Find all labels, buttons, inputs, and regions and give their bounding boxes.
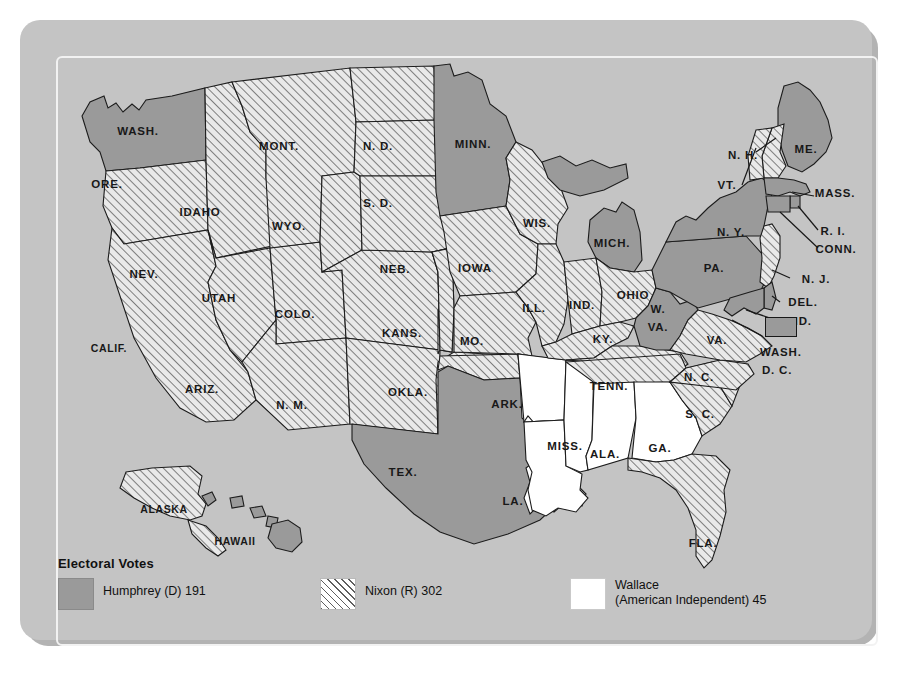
state-label-kans: KANS. [382, 327, 422, 339]
state-label-utah: UTAH [202, 292, 236, 304]
state-label-sc: S. C. [685, 408, 715, 420]
state-label-wash: WASH. [117, 125, 159, 137]
state-label-mich: MICH. [594, 237, 631, 249]
map-area: WASH.ORE.CALIF.IDAHONEV.UTAHARIZ.MONT.WY… [20, 20, 872, 640]
legend: Electoral Votes Humphrey (D) 191 Nixon (… [58, 556, 838, 622]
state-label-conn: CONN. [815, 243, 856, 255]
state-shape-ark-body [518, 354, 566, 422]
state-label-ga: GA. [649, 442, 672, 454]
state-label-ky: KY. [593, 333, 613, 345]
state-shape-ind [564, 258, 602, 334]
legend-label-wallace-line2: (American Independent) 45 [615, 593, 766, 608]
state-label-la: LA. [503, 495, 524, 507]
legend-label-humphrey: Humphrey (D) 191 [103, 578, 206, 599]
legend-title: Electoral Votes [58, 556, 838, 571]
us-states-svg [20, 20, 872, 640]
state-shape-hawaii-2 [230, 496, 244, 508]
state-label-okla: OKLA. [388, 386, 428, 398]
legend-swatch-wallace [570, 578, 606, 610]
state-label-nev: NEV. [130, 268, 159, 280]
legend-row: Humphrey (D) 191 Nixon (R) 302 Wallace (… [58, 578, 838, 622]
state-label-pa: PA. [704, 262, 725, 274]
state-label-ark: ARK. [491, 398, 522, 410]
state-label-minn: MINN. [455, 138, 492, 150]
dc-label-line1: WASH. [760, 346, 802, 358]
state-label-del: DEL. [788, 296, 817, 308]
state-label-hawaii: HAWAII [215, 535, 256, 547]
state-label-tenn: TENN. [590, 380, 629, 392]
state-label-miss: MISS. [547, 440, 582, 452]
state-label-ohio: OHIO [617, 289, 650, 301]
state-label-ill: ILL. [522, 302, 546, 314]
dc-label-line2: D. C. [762, 364, 792, 376]
state-label-ala: ALA. [590, 448, 620, 460]
figure-root: WASH.ORE.CALIF.IDAHONEV.UTAHARIZ.MONT.WY… [0, 0, 904, 683]
state-shape-conn [766, 196, 790, 212]
state-shape-hawaii-big [268, 520, 302, 552]
state-label-tex: TEX. [389, 466, 418, 478]
dc-swatch [765, 317, 797, 337]
legend-swatch-humphrey [58, 578, 94, 610]
state-shape-hawaii-3 [250, 506, 266, 518]
state-label-neb: NEB. [380, 263, 411, 275]
state-label-ind: IND. [569, 299, 595, 311]
state-label-wva: VA. [648, 321, 669, 333]
legend-label-wallace: Wallace (American Independent) 45 [615, 578, 766, 608]
state-shape-nj [760, 224, 780, 288]
legend-item-nixon: Nixon (R) 302 [320, 578, 442, 610]
state-label-wva: W. [650, 303, 665, 315]
state-label-ore: ORE. [91, 178, 122, 190]
legend-label-nixon: Nixon (R) 302 [365, 578, 442, 599]
state-label-calif: CALIF. [91, 342, 127, 354]
state-label-idaho: IDAHO [179, 206, 220, 218]
state-shape-ri [790, 196, 800, 208]
state-label-ny: N. Y. [717, 226, 745, 238]
state-label-wis: WIS. [523, 217, 551, 229]
state-label-nc: N. C. [684, 371, 714, 383]
state-shape-fla [628, 454, 730, 568]
state-label-nh: N. H. [728, 149, 758, 161]
state-shape-nd [350, 66, 436, 122]
state-label-nd: N. D. [363, 140, 393, 152]
state-label-ariz: ARIZ. [185, 383, 219, 395]
state-label-nm: N. M. [276, 399, 307, 411]
state-label-sd: S. D. [363, 197, 393, 209]
state-label-mass: MASS. [815, 187, 855, 199]
state-shape-me [778, 82, 832, 172]
state-shape-ore [103, 160, 208, 244]
state-label-colo: COLO. [275, 308, 315, 320]
state-shape-del [764, 282, 776, 310]
state-label-ri: R. I. [820, 225, 845, 237]
state-label-alaska: ALASKA [140, 503, 187, 515]
legend-item-wallace: Wallace (American Independent) 45 [570, 578, 766, 610]
state-label-mo: MO. [460, 335, 484, 347]
state-label-iowa: IOWA [458, 262, 492, 274]
state-label-vt: VT. [717, 179, 736, 191]
state-label-mont: MONT. [259, 140, 299, 152]
state-label-nj: N. J. [802, 273, 830, 285]
state-label-wyo: WYO. [272, 220, 306, 232]
legend-swatch-nixon [320, 578, 356, 610]
legend-label-wallace-line1: Wallace [615, 578, 766, 593]
state-label-me: ME. [795, 143, 818, 155]
state-label-va: VA. [707, 334, 728, 346]
state-label-fla: FLA. [689, 537, 718, 549]
state-shape-mass [764, 178, 810, 196]
legend-item-humphrey: Humphrey (D) 191 [58, 578, 206, 610]
